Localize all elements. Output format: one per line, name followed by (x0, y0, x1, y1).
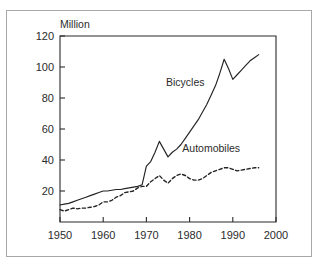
y-axis-tick-label: 120 (36, 30, 54, 42)
series-label-automobiles: Automobiles (182, 142, 240, 154)
chart-figure: 20406080100120 195019601970198019902000 … (0, 0, 320, 266)
y-axis-unit-label: Million (60, 18, 90, 30)
y-axis-tick-label: 60 (42, 123, 54, 135)
y-axis-tick-label: 100 (36, 61, 54, 73)
plot-axes (60, 36, 276, 222)
x-axis-tick-label: 1990 (221, 229, 245, 241)
x-axis-tick-label: 1960 (91, 229, 115, 241)
x-axis-tick-label: 1980 (177, 229, 201, 241)
series-line-bicycles (60, 55, 259, 205)
x-axis-tick-label: 1970 (134, 229, 158, 241)
y-axis-tick-label: 40 (42, 154, 54, 166)
series-label-bicycles: Bicycles (166, 76, 205, 88)
x-axis-tick-label: 2000 (264, 229, 288, 241)
series-line-automobiles (60, 168, 259, 211)
y-axis-tick-labels: 20406080100120 (36, 30, 54, 197)
plot-frame-path (60, 36, 276, 222)
y-axis-tick-label: 20 (42, 185, 54, 197)
line-chart-plot: 20406080100120 195019601970198019902000 … (0, 0, 320, 266)
y-axis-tick-label: 80 (42, 92, 54, 104)
x-axis-tick-labels: 195019601970198019902000 (48, 229, 288, 241)
y-axis-ticks (60, 36, 65, 191)
x-axis-tick-label: 1950 (48, 229, 72, 241)
x-axis-ticks (60, 217, 276, 222)
